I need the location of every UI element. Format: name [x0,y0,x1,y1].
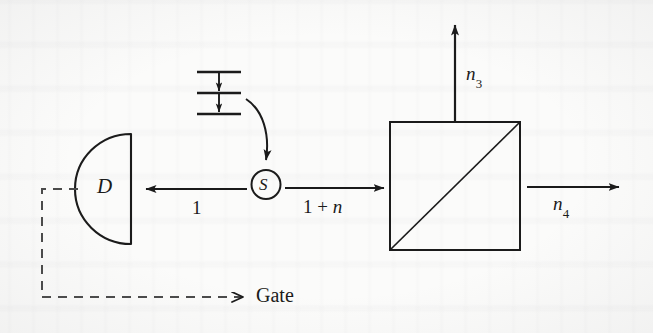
arrow-label-one-plus-n-symbol: n [333,196,343,217]
optical-schematic-svg [0,0,653,333]
arrow-label-n3-subscript: 3 [476,76,482,91]
detector-label: D [97,176,112,197]
arrow-label-n4-subscript: 4 [563,206,569,221]
gate-label: Gate [256,285,294,305]
source-label: S [259,176,268,193]
pump-curve-arrow [246,99,267,160]
arrow-label-n4: n4 [553,194,569,218]
arrow-label-one: 1 [192,198,202,217]
arrow-label-n4-symbol: n [553,193,563,214]
arrow-label-one-plus-n-prefix: 1 + [303,196,333,217]
arrow-label-one-plus-n: 1 + n [303,197,342,216]
gate-feedback-path [42,189,243,297]
arrow-label-n3: n3 [466,64,482,88]
diagram-canvas: D S 1 1 + n n3 n4 Gate [0,0,653,333]
arrow-label-n3-symbol: n [466,63,476,84]
beam-splitter-shape [390,122,520,250]
